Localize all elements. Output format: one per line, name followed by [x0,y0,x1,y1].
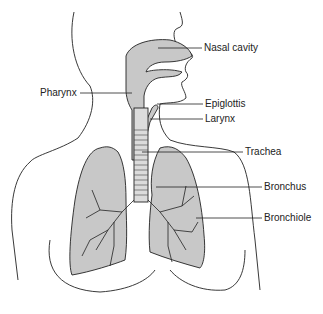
left-shoulder-outline [12,162,30,280]
label-larynx: Larynx [205,113,235,125]
label-bronchiole: Bronchiole [264,212,311,224]
trachea-shape [134,108,148,202]
label-nasal-cavity: Nasal cavity [204,42,258,54]
label-epiglottis: Epiglottis [205,98,246,110]
label-trachea: Trachea [245,146,281,158]
label-bronchus: Bronchus [264,181,306,193]
label-pharynx: Pharynx [40,87,77,99]
